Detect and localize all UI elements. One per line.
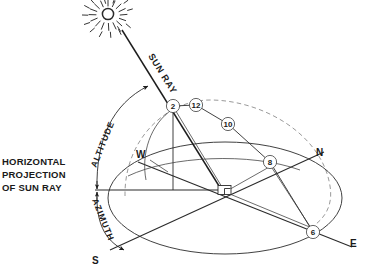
hour-marker-8-label: 8 [268, 158, 273, 167]
axis-east-west [138, 162, 352, 247]
sun-burst-icon [82, 0, 132, 37]
sun-path-line [173, 105, 313, 232]
horizontal-projection-line-1: HORIZONTAL [2, 156, 66, 167]
hour-marker-12-label: 12 [192, 101, 201, 110]
azimuth-label: AZIMUTH [90, 197, 116, 242]
hour-marker-12: 12 [189, 98, 202, 111]
hour-marker-2-label: 2 [171, 102, 176, 111]
radial-line-hour-8-to-6 [272, 168, 311, 228]
hour-marker-6-label: 6 [311, 228, 316, 237]
hour-marker-8: 8 [263, 155, 276, 168]
sun-path-diagram: 2 12 10 8 6 W N E S SUN RAY ALTITUDE AZI… [0, 0, 367, 274]
sun-ray-label: SUN RAY [146, 52, 179, 96]
horizontal-projection-line-2: PROJECTION [2, 169, 66, 180]
compass-label-south: S [92, 255, 99, 266]
compass-label-east: E [350, 238, 357, 249]
compass-label-north: N [316, 147, 323, 158]
altitude-label: ALTITUDE [89, 120, 117, 169]
horizontal-projection-line-3: OF SUN RAY [2, 182, 62, 193]
hour-marker-10-label: 10 [224, 120, 233, 129]
hour-marker-2: 2 [166, 99, 179, 112]
axis-north-south [110, 152, 324, 250]
compass-label-west: W [136, 149, 146, 160]
hour-marker-6: 6 [306, 225, 319, 238]
hour-marker-10: 10 [221, 117, 234, 130]
horizontal-projection-label: HORIZONTAL PROJECTION OF SUN RAY [2, 156, 66, 193]
center-origin-marker [218, 186, 231, 195]
